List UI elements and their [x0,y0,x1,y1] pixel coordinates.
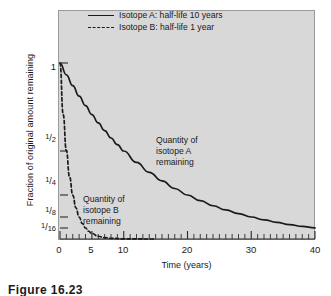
annotation-isotope-b-line2: isotope B [83,205,125,216]
x-tick-label-20: 20 [172,244,202,255]
x-tick-label-5: 5 [76,244,106,255]
fraction-one-quarter: 1/4 [45,176,56,186]
x-tick-label-30: 30 [236,244,266,255]
legend-line-dashed-icon [88,23,114,32]
y-tick-value-1: 1 [51,61,56,72]
annotation-isotope-b-line1: Quantity of [83,194,125,205]
legend-label-isotope-a: Isotope A: half-life 10 years [119,10,223,22]
x-tick-label-40: 40 [300,244,330,255]
annotation-isotope-a-line2: isotope A [156,146,198,157]
legend-item-isotope-a: Isotope A: half-life 10 years [88,10,223,22]
fraction-denominator: 8 [52,208,56,217]
figure-root: Fraction of original amount remaining 1 … [0,0,331,296]
figure-caption: Figure 16.23 [8,283,83,296]
y-tick-label-1: 1 [10,62,56,72]
x-axis-title: Time (years) [58,260,315,270]
y-tick-label-one-sixteenth: 1/16 [10,222,56,232]
y-tick-label-one-half: 1/2 [10,133,56,143]
annotation-isotope-a-line3: remaining [156,157,198,168]
fraction-denominator: 4 [52,178,56,187]
plot-area: Quantity of isotope A remaining Quantity… [58,10,315,240]
fraction-one-sixteenth: 1/16 [41,222,56,232]
legend-label-isotope-b: Isotope B: half-life 1 year [119,22,214,34]
legend-line-solid-icon [88,11,114,20]
x-axis-tick-labels: 0 5 10 20 30 40 [0,244,331,258]
fraction-denominator: 2 [52,135,56,144]
fraction-one-eighth: 1/8 [45,206,56,216]
fraction-denominator: 16 [48,224,56,233]
annotation-isotope-b: Quantity of isotope B remaining [83,194,125,227]
annotation-isotope-a: Quantity of isotope A remaining [156,135,198,168]
x-tick-label-0: 0 [44,244,74,255]
fraction-one-half: 1/2 [45,133,56,143]
y-tick-label-one-eighth: 1/8 [10,206,56,216]
y-tick-label-one-quarter: 1/4 [10,176,56,186]
chart-legend: Isotope A: half-life 10 years Isotope B:… [88,10,223,33]
annotation-isotope-b-line3: remaining [83,216,125,227]
legend-item-isotope-b: Isotope B: half-life 1 year [88,22,223,34]
annotation-isotope-a-line1: Quantity of [156,135,198,146]
x-tick-label-10: 10 [108,244,138,255]
